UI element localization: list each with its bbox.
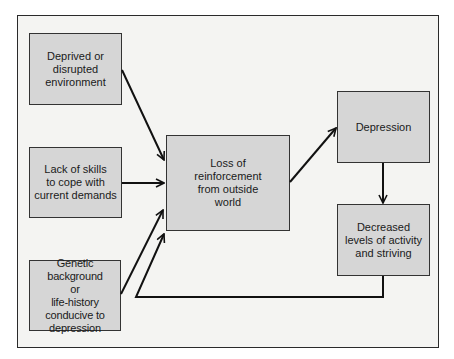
- connector-arrows: [0, 0, 454, 359]
- arrow-loss-to-depression: [290, 128, 336, 182]
- arrow-deprived-to-loss: [122, 70, 164, 160]
- arrow-feedback-decreased-to-loss: [136, 234, 383, 297]
